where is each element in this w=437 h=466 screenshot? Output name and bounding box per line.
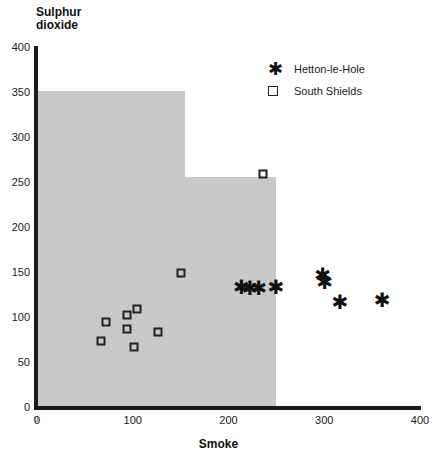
y-tick-label: 200 [0,221,30,233]
open-square-marker-icon [268,86,294,96]
y-tick-label: 100 [0,311,30,323]
y-axis-line [34,46,38,410]
data-point-square [176,269,185,278]
x-tick-label: 300 [304,414,344,426]
y-axis-title-line2: dioxide [36,19,81,32]
x-axis-title: Smoke [0,437,437,451]
data-point-square [97,336,106,345]
x-axis-line [35,406,421,410]
legend-item-hetton-le-hole: ✱ Hetton-le-Hole [268,58,365,80]
data-point-square [258,170,267,179]
data-point-square [123,311,132,320]
x-tick-label: 100 [113,414,153,426]
data-point-square [101,317,110,326]
y-tick-label: 0 [0,401,30,413]
data-point-asterisk: ✱ [250,280,266,296]
scatter-chart: Sulphur dioxide ✱✱✱✱✱✱✱✱ 050100150200250… [0,0,437,466]
y-axis-title: Sulphur dioxide [36,6,81,32]
y-tick-label: 350 [0,86,30,98]
data-point-square [123,324,132,333]
legend-label: South Shields [294,85,362,97]
x-axis-origin-label: 0 [26,414,46,424]
data-point-asterisk: ✱ [267,279,283,295]
y-tick-label: 150 [0,266,30,278]
y-tick-label: 400 [0,41,30,53]
data-point-square [129,342,138,351]
legend-item-south-shields: South Shields [268,80,365,102]
y-tick-label: 300 [0,131,30,143]
legend-label: Hetton-le-Hole [294,63,365,75]
data-point-asterisk: ✱ [374,292,390,308]
y-tick-label: 50 [0,356,30,368]
data-point-asterisk: ✱ [332,294,348,310]
y-tick-label: 250 [0,176,30,188]
data-point-square [132,305,141,314]
data-point-asterisk: ✱ [316,274,332,290]
x-tick-label: 400 [400,414,437,426]
x-tick-label: 200 [209,414,249,426]
legend: ✱ Hetton-le-Hole South Shields [268,58,365,102]
plot-area: ✱✱✱✱✱✱✱✱ [37,48,420,408]
data-point-square [153,327,162,336]
asterisk-marker-icon: ✱ [268,63,294,75]
